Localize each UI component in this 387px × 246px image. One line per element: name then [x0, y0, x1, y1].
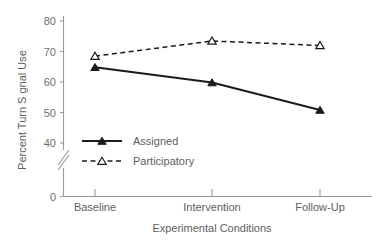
- y-tick-label-0: 0: [50, 191, 56, 203]
- y-axis-title: Percent Turn S gnal Use: [16, 50, 28, 170]
- x-axis-title: Experimental Conditions: [152, 222, 272, 234]
- legend-label-participatory: Participatory: [133, 155, 195, 167]
- x-category-label-followup: Follow-Up: [295, 201, 345, 213]
- y-tick-label-40: 40: [44, 137, 56, 149]
- y-tick-label-80: 80: [44, 15, 56, 27]
- x-category-label-baseline: Baseline: [74, 201, 116, 213]
- legend-label-assigned: Assigned: [133, 135, 178, 147]
- line-chart: 80 70 60 50 40 0 Baseline Intervention F…: [0, 0, 387, 246]
- y-tick-label-60: 60: [44, 76, 56, 88]
- x-category-label-intervention: Intervention: [183, 201, 240, 213]
- chart-container: 80 70 60 50 40 0 Baseline Intervention F…: [0, 0, 387, 246]
- series-line-assigned: [95, 67, 320, 110]
- y-tick-label-70: 70: [44, 46, 56, 58]
- legend: Assigned Participatory: [82, 135, 195, 167]
- series-line-participatory: [95, 41, 320, 56]
- y-tick-label-50: 50: [44, 107, 56, 119]
